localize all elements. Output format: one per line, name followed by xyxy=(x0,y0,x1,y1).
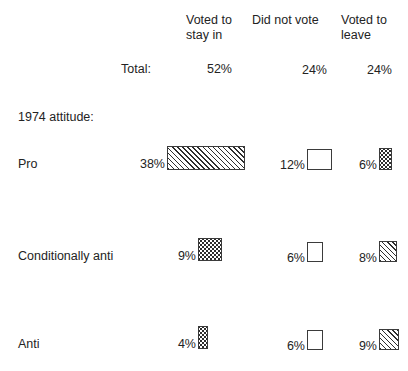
total-row-label: Total: xyxy=(98,62,151,76)
cell-value-anti-leave: 9% xyxy=(350,339,377,353)
bar-anti-leave xyxy=(379,329,399,350)
bar-anti-stay-in xyxy=(198,326,208,349)
bar-anti-did-not-vote xyxy=(307,330,323,350)
row-label-conditionally-anti: Conditionally anti xyxy=(18,249,113,263)
bar-conditionally-anti-leave xyxy=(379,241,397,262)
chart-figure: Voted to stay in Did not vote Voted to l… xyxy=(0,0,408,371)
cell-value-anti-stay-in: 4% xyxy=(163,337,196,351)
row-label-anti: Anti xyxy=(18,337,40,351)
row-label-pro: Pro xyxy=(18,157,37,171)
cell-value-pro-stay-in: 38% xyxy=(128,157,165,171)
bar-pro-did-not-vote xyxy=(307,149,332,170)
total-did-not-vote-value: 24% xyxy=(290,63,327,77)
cell-value-conditionally-anti-did-not-vote: 6% xyxy=(278,251,305,265)
cell-value-pro-leave: 6% xyxy=(350,158,377,172)
total-leave-value: 24% xyxy=(355,63,392,77)
bar-conditionally-anti-did-not-vote xyxy=(307,242,323,262)
bar-conditionally-anti-stay-in xyxy=(198,238,222,261)
cell-value-conditionally-anti-stay-in: 9% xyxy=(163,249,196,263)
cell-value-conditionally-anti-leave: 8% xyxy=(350,251,377,265)
bar-pro-stay-in xyxy=(167,146,245,170)
column-header-did-not-vote: Did not vote xyxy=(252,13,338,28)
column-header-stay-in: Voted to stay in xyxy=(186,13,248,42)
total-stay-in-value: 52% xyxy=(195,62,232,76)
bar-pro-leave xyxy=(379,148,392,170)
section-label-1974-attitude: 1974 attitude: xyxy=(18,110,94,124)
column-header-leave: Voted to leave xyxy=(341,13,405,42)
cell-value-pro-did-not-vote: 12% xyxy=(272,158,305,172)
cell-value-anti-did-not-vote: 6% xyxy=(278,339,305,353)
